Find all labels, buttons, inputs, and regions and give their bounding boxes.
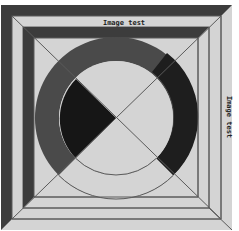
right-label: Image test <box>225 96 233 138</box>
test-pattern-svg: Image test Image test <box>0 0 239 231</box>
top-label: Image test <box>103 19 145 27</box>
image-test-pattern: Image test Image test <box>0 0 239 231</box>
